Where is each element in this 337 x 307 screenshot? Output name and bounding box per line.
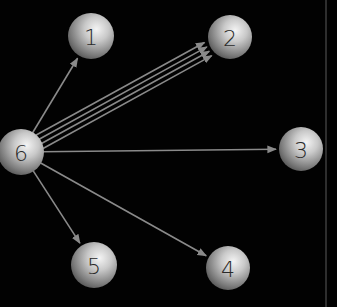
edges <box>32 42 276 255</box>
node-3: 3 <box>279 127 323 171</box>
edge-6-to-3 <box>42 149 276 152</box>
node-label: 5 <box>87 254 101 279</box>
node-label: 3 <box>294 138 308 163</box>
node-label: 4 <box>221 257 235 282</box>
node-2: 2 <box>208 15 252 59</box>
node-4: 4 <box>206 246 250 290</box>
node-label: 1 <box>84 25 98 50</box>
node-6: 6 <box>0 129 44 175</box>
graph-canvas: 123456 <box>0 0 337 307</box>
node-5: 5 <box>71 242 117 288</box>
node-label: 2 <box>223 26 237 51</box>
edge-6-to-4 <box>39 162 206 256</box>
node-label: 6 <box>14 141 28 166</box>
graph-svg: 123456 <box>0 0 337 307</box>
edge-6-to-2 <box>38 47 207 140</box>
edge-6-to-2 <box>36 42 205 135</box>
edge-6-to-2 <box>41 51 210 144</box>
edge-6-to-2 <box>43 56 212 149</box>
node-1: 1 <box>68 13 114 59</box>
